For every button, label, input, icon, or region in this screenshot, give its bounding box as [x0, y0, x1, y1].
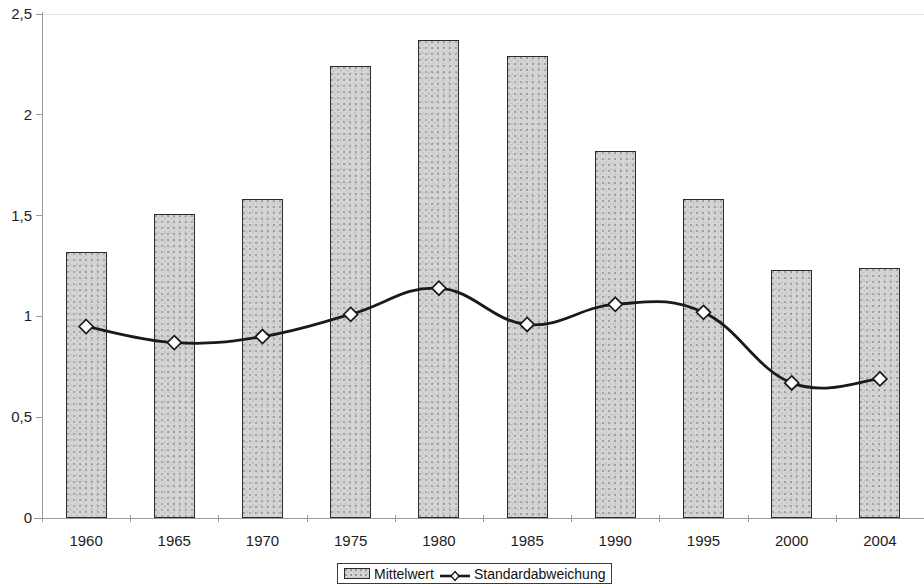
bar-1985	[507, 56, 548, 518]
x-tick-mark	[42, 515, 43, 522]
bar-1965	[154, 214, 195, 518]
x-tick-label-1970: 1970	[218, 533, 306, 548]
legend-item-standardabweichung: Standardabweichung	[440, 567, 606, 581]
y-tick-mark	[36, 417, 43, 418]
bar-2000	[771, 270, 812, 518]
x-tick-label-1985: 1985	[483, 533, 571, 548]
bar-1995	[683, 199, 724, 518]
legend-label-mittelwert: Mittelwert	[374, 567, 434, 581]
chart-legend: Mittelwert Standardabweichung	[337, 563, 612, 584]
chart-container: 00,511,522,5 196019651970197519801985199…	[0, 0, 924, 588]
y-tick-mark	[36, 215, 43, 216]
legend-label-standardabweichung: Standardabweichung	[474, 567, 606, 581]
bar-1975	[330, 66, 371, 518]
x-tick-label-2000: 2000	[748, 533, 836, 548]
x-tick-label-1965: 1965	[130, 533, 218, 548]
bar-1970	[242, 199, 283, 518]
x-tick-mark	[836, 515, 837, 522]
x-tick-mark	[218, 515, 219, 522]
bar-1980	[418, 40, 459, 518]
line-diamond-swatch-icon	[440, 568, 470, 580]
x-tick-mark	[483, 515, 484, 522]
legend-item-mittelwert: Mittelwert	[344, 567, 434, 581]
x-tick-mark	[307, 515, 308, 522]
x-tick-mark	[395, 515, 396, 522]
bar-2004	[859, 268, 900, 518]
bar-1960	[66, 252, 107, 518]
x-tick-mark	[659, 515, 660, 522]
y-tick-mark	[36, 316, 43, 317]
bar-1990	[595, 151, 636, 518]
x-tick-label-1990: 1990	[571, 533, 659, 548]
x-tick-label-1975: 1975	[307, 533, 395, 548]
x-tick-mark	[130, 515, 131, 522]
y-tick-label: 0	[0, 510, 32, 525]
y-tick-label: 1,5	[0, 208, 32, 223]
x-tick-label-2004: 2004	[836, 533, 924, 548]
x-axis-line	[34, 518, 924, 519]
y-tick-label: 0,5	[0, 409, 32, 424]
x-tick-label-1995: 1995	[659, 533, 747, 548]
x-tick-label-1980: 1980	[395, 533, 483, 548]
y-tick-label: 2,5	[0, 6, 32, 21]
y-tick-mark	[36, 114, 43, 115]
x-tick-label-1960: 1960	[42, 533, 130, 548]
y-tick-label: 1	[0, 308, 32, 323]
x-tick-mark	[571, 515, 572, 522]
y-tick-mark	[36, 14, 43, 15]
x-tick-mark	[748, 515, 749, 522]
y-axis-line	[42, 12, 43, 520]
bar-swatch-icon	[344, 568, 370, 579]
y-tick-label: 2	[0, 107, 32, 122]
